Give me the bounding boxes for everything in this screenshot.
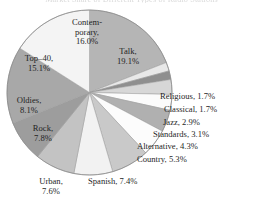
- slice-label-contemporary: Contem- porary, 16.0%: [56, 18, 118, 47]
- slice-label-spanish: Spanish, 7.4%: [88, 177, 158, 187]
- slice-label-jazz: Jazz, 2.9%: [163, 118, 257, 128]
- slice-value-talk: 19.1%: [104, 57, 152, 67]
- slice-label-rock: Rock, 7.8%: [22, 124, 64, 143]
- slice-label-alternative: Alternative, 4.3%: [137, 142, 257, 152]
- pie-chart-figure: Market Share of Different Types of Radio…: [0, 0, 263, 208]
- slice-value-contemporary: 16.0%: [56, 37, 118, 47]
- slice-value-top40: 15.1%: [12, 64, 66, 74]
- slice-label-talk: Talk, 19.1%: [104, 47, 152, 66]
- slice-label-classical: Classical, 1.7%: [164, 105, 257, 115]
- slice-label-country: Country, 5.3%: [137, 155, 217, 165]
- slice-label-oldies: Oldies, 8.1%: [6, 96, 52, 115]
- slice-label-urban: Urban, 7.6%: [26, 177, 76, 196]
- slice-label-standards: Standards, 3.1%: [153, 130, 257, 140]
- slice-label-top40: Top–40, 15.1%: [12, 54, 66, 73]
- slice-label-religious: Religious, 1.7%: [160, 92, 257, 102]
- slice-value-oldies: 8.1%: [6, 106, 52, 116]
- slice-value-urban: 7.6%: [26, 187, 76, 197]
- slice-value-rock: 7.8%: [22, 134, 64, 144]
